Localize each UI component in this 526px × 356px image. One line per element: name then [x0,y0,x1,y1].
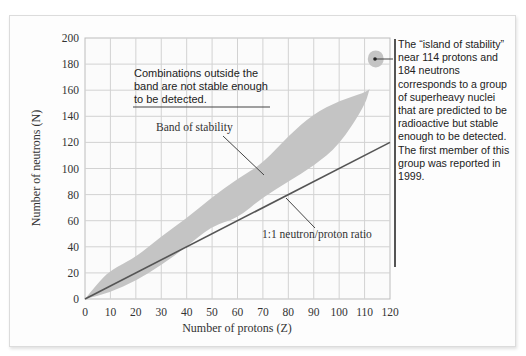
band-label: Band of stability [156,121,233,134]
x-tick-label: 20 [130,306,142,318]
island-sidenote: The “island of stability” near 114 proto… [398,38,510,183]
x-tick-label: 40 [181,306,193,318]
x-tick-label: 50 [206,306,218,318]
outside-note-line3: to be detected. [134,93,207,105]
x-tick-label: 90 [308,306,320,318]
x-tick-label: 0 [82,306,88,318]
x-tick-label: 10 [105,306,117,318]
x-tick-label: 60 [232,306,244,318]
x-axis-label: Number of protons (Z) [182,321,292,335]
y-tick-label: 160 [62,84,80,96]
sidenote-rule [394,39,396,267]
x-axis-ticks: 0102030405060708090100110120 [82,306,399,318]
x-tick-label: 70 [257,306,269,318]
y-axis-ticks: 020406080100120140160180200 [62,32,80,305]
x-tick-label: 30 [156,306,168,318]
ratio-label: 1:1 neutron/proton ratio [262,228,372,241]
x-tick-label: 80 [283,306,295,318]
y-tick-label: 200 [62,32,80,44]
x-tick-label: 100 [331,306,349,318]
y-axis-label: Number of neutrons (N) [29,110,43,226]
y-tick-label: 140 [62,110,80,122]
outside-note-line2: band are not stable enough [134,80,268,92]
x-tick-label: 110 [356,306,373,318]
y-tick-label: 80 [68,189,80,201]
y-tick-label: 0 [73,293,79,305]
x-tick-label: 120 [381,306,399,318]
outside-note-line1: Combinations outside the [134,67,258,79]
y-tick-label: 120 [62,136,80,148]
y-tick-label: 100 [62,163,80,175]
island-marker [373,57,377,61]
y-tick-label: 20 [68,267,80,279]
y-tick-label: 40 [68,241,80,253]
y-tick-label: 60 [68,215,80,227]
y-tick-label: 180 [62,58,80,70]
